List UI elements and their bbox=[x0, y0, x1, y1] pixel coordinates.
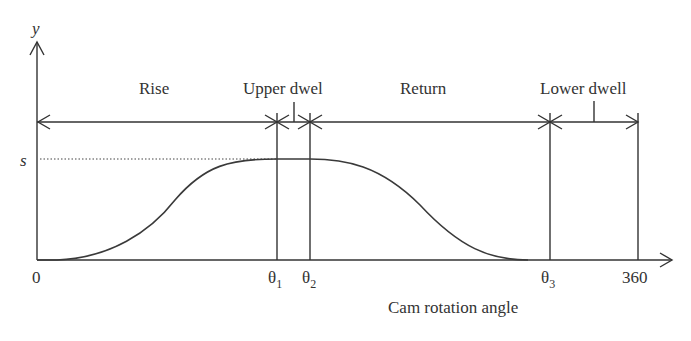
s-level-label: s bbox=[20, 151, 27, 170]
segment-label-rise: Rise bbox=[139, 79, 169, 98]
segment-label-lower-dwell: Lower dwell bbox=[540, 79, 627, 98]
tick-label-theta2: θ2 bbox=[302, 268, 316, 291]
segment-label-upper-dwell: Upper dwel bbox=[243, 79, 323, 98]
tick-label-360: 360 bbox=[622, 268, 648, 287]
cam-displacement-diagram: y s Rise Upper dwel Return Lower dwell bbox=[0, 0, 691, 341]
displacement-curve bbox=[37, 159, 528, 260]
segment-label-return: Return bbox=[400, 79, 447, 98]
y-axis-label: y bbox=[30, 19, 40, 38]
tick-label-theta1: θ1 bbox=[268, 268, 282, 291]
x-axis-title: Cam rotation angle bbox=[388, 298, 518, 317]
x-axis bbox=[37, 253, 672, 267]
tick-label-origin: 0 bbox=[32, 268, 41, 287]
tick-label-theta3: θ3 bbox=[541, 268, 555, 291]
y-axis bbox=[30, 42, 44, 260]
dimension-line bbox=[37, 101, 638, 129]
